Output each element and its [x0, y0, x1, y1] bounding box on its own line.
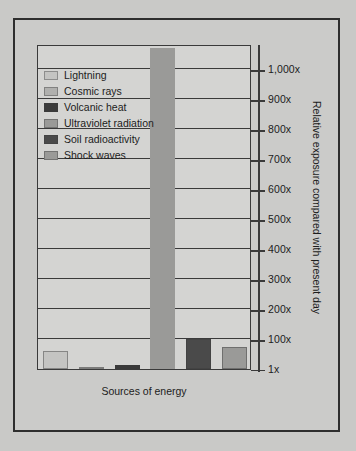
- legend-swatch-icon: [44, 151, 58, 160]
- gridline: [38, 278, 250, 280]
- bar-cosmic-rays: [79, 367, 104, 369]
- y-tick-label: 1,000x: [268, 63, 300, 75]
- bar-ultraviolet-radiation: [150, 48, 175, 369]
- legend-item-label: Volcanic heat: [64, 101, 126, 113]
- gridline: [38, 338, 250, 340]
- chart-figure: 1x100x200x300x400x500x600x700x800x900x1,…: [0, 0, 356, 451]
- legend-item-label: Soil radioactivity: [64, 133, 140, 145]
- gridline: [38, 188, 250, 190]
- y-tick-label: 800x: [268, 123, 291, 135]
- y-tick-mark: [251, 130, 265, 132]
- y-tick-label: 100x: [268, 333, 291, 345]
- y-tick-mark: [251, 190, 265, 192]
- legend-item-label: Cosmic rays: [64, 85, 122, 97]
- legend-item: Ultraviolet radiation: [44, 116, 154, 130]
- y-tick-label: 300x: [268, 273, 291, 285]
- gridline: [38, 308, 250, 310]
- gridline: [38, 248, 250, 250]
- gridline: [38, 218, 250, 220]
- chart-legend: LightningCosmic raysVolcanic heatUltravi…: [44, 68, 154, 162]
- y-tick-label: 700x: [268, 153, 291, 165]
- y-tick-mark: [251, 280, 265, 282]
- legend-swatch-icon: [44, 119, 58, 128]
- legend-item: Cosmic rays: [44, 84, 154, 98]
- legend-swatch-icon: [44, 103, 58, 112]
- y-tick-label: 200x: [268, 303, 291, 315]
- y-axis-title: Relative exposure compared with present …: [306, 45, 328, 370]
- y-tick-label: 600x: [268, 183, 291, 195]
- bar-lightning: [43, 351, 68, 369]
- y-tick-label: 500x: [268, 213, 291, 225]
- y-tick-label: 1x: [268, 363, 279, 375]
- legend-swatch-icon: [44, 87, 58, 96]
- y-tick-label: 900x: [268, 93, 291, 105]
- y-tick-mark: [251, 100, 265, 102]
- y-tick-mark: [251, 310, 265, 312]
- y-tick-mark: [251, 250, 265, 252]
- legend-item-label: Lightning: [64, 69, 107, 81]
- legend-item: Shock waves: [44, 148, 154, 162]
- y-tick-mark: [251, 340, 265, 342]
- y-axis-spine: [258, 45, 260, 372]
- bar-volcanic-heat: [115, 365, 140, 369]
- legend-item-label: Shock waves: [64, 149, 126, 161]
- x-axis-title: Sources of energy: [37, 385, 251, 397]
- legend-swatch-icon: [44, 71, 58, 80]
- legend-item-label: Ultraviolet radiation: [64, 117, 154, 129]
- y-tick-mark: [251, 370, 265, 372]
- y-tick-mark: [251, 160, 265, 162]
- bar-soil-radioactivity: [186, 339, 211, 369]
- legend-item: Volcanic heat: [44, 100, 154, 114]
- y-tick-mark: [251, 70, 265, 72]
- bar-shock-waves: [222, 347, 247, 370]
- legend-item: Soil radioactivity: [44, 132, 154, 146]
- legend-item: Lightning: [44, 68, 154, 82]
- y-tick-mark: [251, 220, 265, 222]
- y-tick-label: 400x: [268, 243, 291, 255]
- legend-swatch-icon: [44, 135, 58, 144]
